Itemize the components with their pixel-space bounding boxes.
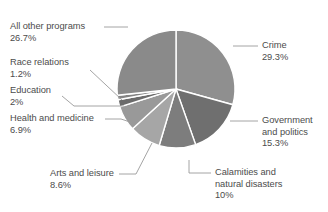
slice-value-text: 26.7% bbox=[10, 33, 85, 45]
slice-label: Crime29.3% bbox=[262, 40, 288, 63]
slice-name-text: Calamities and bbox=[215, 167, 282, 179]
slice-label: Arts and leisure8.6% bbox=[50, 168, 114, 191]
slice-name-text: Crime bbox=[262, 40, 288, 52]
slice-label: Education2% bbox=[10, 85, 51, 108]
slice-value-text: 29.3% bbox=[262, 52, 288, 64]
pie-chart-figure: Crime29.3%Governmentand politics15.3%Cal… bbox=[0, 0, 328, 212]
slice-value-text: 2% bbox=[10, 97, 51, 109]
slice-value-text: 6.9% bbox=[10, 125, 94, 137]
slice-label: Race relations1.2% bbox=[10, 57, 69, 80]
slice-value-text: 15.3% bbox=[262, 138, 313, 150]
slice-label: Calamities andnatural disasters10% bbox=[215, 167, 282, 202]
slice-name-text: Arts and leisure bbox=[50, 168, 114, 180]
leader-line bbox=[119, 143, 152, 174]
slice-name-text: Government bbox=[262, 115, 313, 127]
slice-name-text: Health and medicine bbox=[10, 113, 94, 125]
slice-name-text: Education bbox=[10, 85, 51, 97]
pie-slice bbox=[117, 30, 176, 95]
pie-slice-group bbox=[117, 30, 235, 148]
slice-name-text: Race relations bbox=[10, 57, 69, 69]
slice-value-text: 1.2% bbox=[10, 69, 69, 81]
leader-line bbox=[189, 160, 211, 173]
slice-name-text: natural disasters bbox=[215, 179, 282, 191]
slice-label: Governmentand politics15.3% bbox=[262, 115, 313, 150]
slice-value-text: 10% bbox=[215, 190, 282, 202]
slice-label: Health and medicine6.9% bbox=[10, 113, 94, 136]
slice-label: All other programs26.7% bbox=[10, 21, 85, 44]
slice-name-text: All other programs bbox=[10, 21, 85, 33]
leader-line bbox=[62, 96, 124, 106]
slice-value-text: 8.6% bbox=[50, 180, 114, 192]
slice-name-text: and politics bbox=[262, 127, 313, 139]
